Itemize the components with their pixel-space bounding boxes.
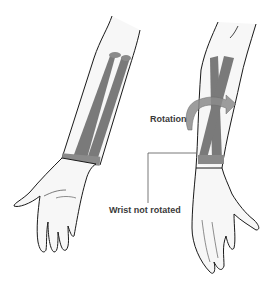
forearm-rotation-diagram: Rotation Wrist not rotated xyxy=(0,0,271,283)
illustration xyxy=(0,0,271,283)
leader-line xyxy=(148,153,196,203)
left-arm xyxy=(14,16,140,252)
right-arm xyxy=(186,22,259,273)
rotation-label: Rotation xyxy=(150,114,187,124)
wrist-label: Wrist not rotated xyxy=(109,205,181,215)
